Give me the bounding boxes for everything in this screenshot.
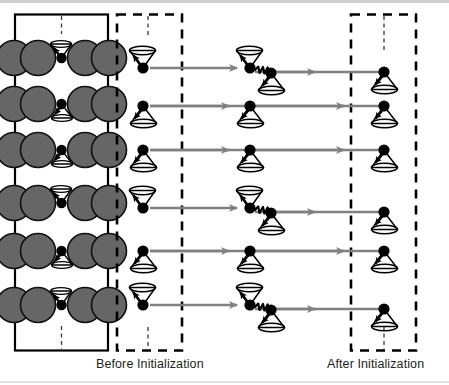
spin-cone-up-icon — [131, 245, 157, 272]
spin-cone-up-icon — [131, 100, 157, 127]
process-row-2 — [131, 100, 398, 127]
after-initialization-label: After Initialization — [327, 357, 424, 371]
spin-cone-up-icon — [238, 100, 264, 127]
spin-cone-up-icon — [238, 144, 264, 171]
diagram-svg — [0, 0, 449, 385]
process-row-1 — [130, 46, 398, 94]
crystal-lattice-panel — [0, 15, 127, 351]
spin-cone-up-icon — [372, 100, 398, 127]
spin-cone-up-icon — [372, 206, 398, 233]
process-row-4 — [130, 186, 398, 234]
spin-cone-down-icon — [130, 46, 156, 73]
before-initialization-label: Before Initialization — [96, 357, 204, 371]
process-row-3 — [131, 144, 398, 171]
spin-cone-down-icon — [130, 283, 156, 310]
spin-cone-up-icon — [372, 66, 398, 93]
before-initialization-panel — [117, 15, 182, 351]
spin-cone-up-icon — [372, 245, 398, 272]
spin-cone-up-icon — [372, 144, 398, 171]
after-panel-border — [351, 15, 416, 351]
spin-cone-up-icon — [372, 303, 398, 330]
process-row-6 — [130, 283, 398, 331]
figure-canvas: Before Initialization After Initializati… — [0, 0, 449, 385]
spin-cone-down-icon — [130, 186, 156, 213]
after-initialization-panel — [351, 15, 416, 351]
process-row-5 — [131, 245, 398, 272]
spin-cone-up-icon — [131, 144, 157, 171]
spin-cone-up-icon — [238, 245, 264, 272]
before-panel-border — [117, 15, 182, 351]
